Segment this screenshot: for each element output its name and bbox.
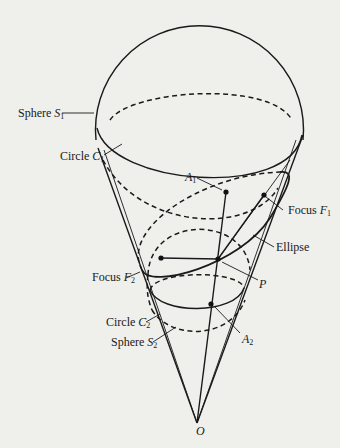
label-o: O <box>196 425 205 437</box>
ellipse-front <box>142 172 289 277</box>
sphere-s1-outline <box>96 26 304 140</box>
point-f1 <box>261 192 266 197</box>
line-f2-p <box>161 258 218 259</box>
point-f2 <box>158 255 163 260</box>
point-a1 <box>223 189 228 194</box>
label-sphere-s2: Sphere S2 <box>111 336 157 350</box>
label-a1: A1 <box>185 171 196 185</box>
label-circle-c2: Circle C2 <box>106 316 150 330</box>
sphere-s1-dashed-equator <box>110 94 292 120</box>
leader-ellipse <box>253 235 274 247</box>
circle-c2-front <box>150 288 244 309</box>
circle-c1-front <box>97 128 302 178</box>
point-a2 <box>208 301 213 306</box>
label-sphere-s1: Sphere S1 <box>18 107 64 121</box>
label-focus-f1: Focus F1 <box>288 204 331 218</box>
label-focus-f2: Focus F2 <box>92 271 135 285</box>
dandelin-spheres-diagram: Sphere S1 Circle C1 A1 Focus F1 Ellipse … <box>0 0 340 448</box>
sphere-s1-lower-dashed <box>103 160 278 219</box>
cone-inner-right <box>197 140 296 423</box>
cone-inner-left <box>104 150 197 423</box>
label-ellipse: Ellipse <box>276 241 309 253</box>
label-a2: A2 <box>242 333 253 347</box>
label-circle-c1: Circle C1 <box>60 150 104 164</box>
point-p <box>215 256 220 261</box>
diagram-drawing <box>0 0 340 448</box>
label-p: P <box>259 278 266 290</box>
